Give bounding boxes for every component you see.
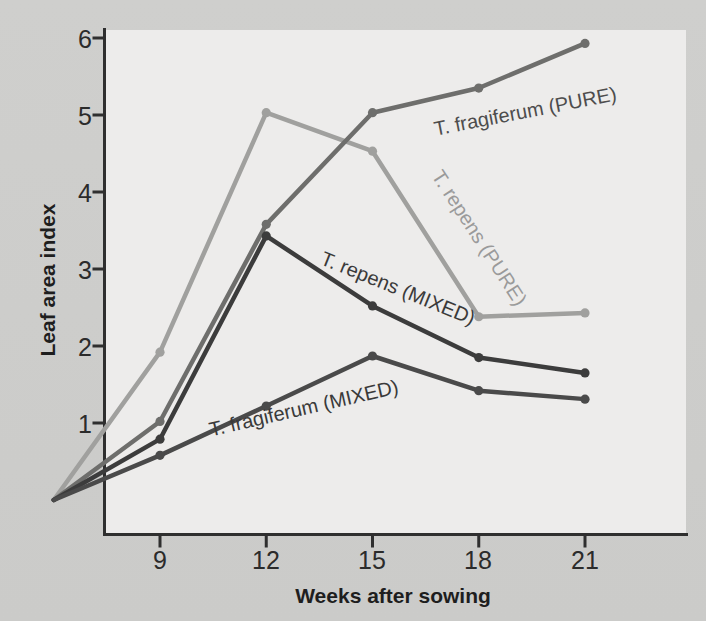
- data-point: [262, 108, 271, 117]
- data-point: [474, 83, 483, 92]
- data-point: [368, 108, 377, 117]
- data-point: [580, 39, 589, 48]
- x-axis-title: Weeks after sowing: [183, 584, 603, 608]
- data-point: [474, 386, 483, 395]
- series-t-repens-mixed: [54, 231, 590, 500]
- x-tick-label-12: 12: [241, 546, 291, 575]
- data-point: [368, 301, 377, 310]
- data-point: [580, 368, 589, 377]
- x-tick-label-21: 21: [560, 546, 610, 575]
- y-tick-label-5: 5: [52, 102, 92, 131]
- data-point: [368, 351, 377, 360]
- data-point: [155, 348, 164, 357]
- chart-canvas: [0, 0, 706, 621]
- series-line: [54, 236, 585, 500]
- data-point: [580, 395, 589, 404]
- x-tick-label-18: 18: [453, 546, 503, 575]
- data-point: [262, 220, 271, 229]
- data-point: [580, 308, 589, 317]
- series-t-fragiferum-mixed: [54, 351, 590, 500]
- data-point: [368, 147, 377, 156]
- x-tick-label-15: 15: [347, 546, 397, 575]
- data-point: [474, 312, 483, 321]
- series-t-fragiferum-pure: [54, 39, 590, 500]
- x-tick-label-9: 9: [135, 546, 185, 575]
- data-point: [155, 435, 164, 444]
- figure-container: 6 5 4 3 2 1 9 12 15 18 21 Leaf area inde…: [0, 0, 706, 621]
- y-tick-label-1: 1: [52, 410, 92, 439]
- data-point: [155, 451, 164, 460]
- series-line: [54, 356, 585, 500]
- data-point: [474, 353, 483, 362]
- y-tick-label-6: 6: [52, 25, 92, 54]
- data-point: [262, 401, 271, 410]
- y-axis-title: Leaf area index: [36, 170, 60, 390]
- y-axis-ticks: [93, 38, 105, 423]
- data-point: [155, 417, 164, 426]
- data-point: [262, 231, 271, 240]
- data-series-layer: [54, 39, 590, 500]
